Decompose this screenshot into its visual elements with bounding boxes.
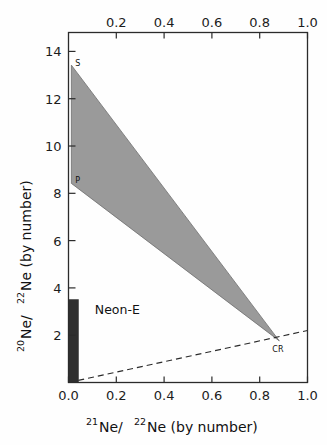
y-tick-label-2: 6: [53, 234, 61, 249]
annotation-p: P: [75, 176, 80, 185]
x-axis-title-ne-slash: Ne/: [99, 419, 123, 435]
neon-isotope-figure: 0.00.20.40.60.81.0 0.20.40.60.81.0 24681…: [0, 0, 327, 445]
y-axis-tick-labels: 2468101214: [45, 44, 62, 343]
x-tick-label-bottom-0: 0.0: [58, 388, 79, 403]
annotation-s: S: [75, 59, 80, 68]
x-tick-label-bottom-1: 0.2: [106, 388, 127, 403]
x-tick-label-top-2: 0.6: [202, 15, 223, 30]
x-tick-label-bottom-5: 1.0: [297, 388, 318, 403]
y-tick-label-3: 8: [53, 186, 61, 201]
mixing-triangle-shape: [71, 65, 279, 341]
x-axis-bottom-tick-labels: 0.00.20.40.60.81.0: [58, 388, 318, 403]
x-tick-label-top-0: 0.2: [106, 15, 127, 30]
y-tick-label-6: 14: [45, 44, 62, 59]
x-axis-bottom-ticks: [69, 377, 308, 383]
annotation-neon-e: Neon-E: [95, 302, 140, 317]
x-tick-label-top-1: 0.4: [154, 15, 175, 30]
y-tick-label-4: 10: [45, 139, 62, 154]
cr-mixing-line: [69, 330, 308, 382]
y-axis-title-ne-slash: Ne/: [18, 315, 34, 339]
x-axis-title-tail: Ne (by number): [147, 419, 258, 435]
annotation-cr: CR: [272, 345, 284, 354]
y-axis-title-tail: Ne (by number): [18, 180, 34, 291]
x-axis-title-sup-22: 22: [134, 416, 146, 427]
x-axis-top-tick-labels: 0.20.40.60.81.0: [106, 15, 318, 30]
x-axis-title-sup-21: 21: [86, 416, 98, 427]
x-tick-label-top-4: 1.0: [297, 15, 318, 30]
y-axis-title-sup-20: 20: [15, 340, 26, 352]
x-axis-top-ticks: [116, 33, 307, 39]
y-tick-label-5: 12: [45, 92, 62, 107]
x-tick-label-top-3: 0.8: [249, 15, 270, 30]
x-tick-label-bottom-2: 0.4: [154, 388, 175, 403]
x-tick-label-bottom-4: 0.8: [249, 388, 270, 403]
y-tick-label-1: 4: [53, 281, 61, 296]
y-axis-title: 20 Ne/ 22 Ne (by number): [15, 180, 34, 352]
x-axis-title: 21 Ne/ 22 Ne (by number): [86, 416, 258, 435]
y-axis-title-sup-22: 22: [15, 292, 26, 304]
neon-e-bar: [68, 299, 79, 382]
y-tick-label-0: 2: [53, 328, 61, 343]
plot-canvas: 0.00.20.40.60.81.0 0.20.40.60.81.0 24681…: [0, 0, 327, 445]
x-tick-label-bottom-3: 0.6: [202, 388, 223, 403]
